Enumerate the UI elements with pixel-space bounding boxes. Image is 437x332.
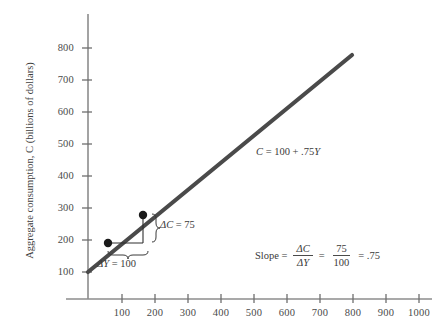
slope-formula-label: Slope = — [255, 250, 287, 261]
y-tick-label-300: 300 — [40, 202, 74, 213]
equation-lhs: C — [256, 146, 263, 157]
slope-fraction-numeric: 75 100 — [331, 243, 353, 268]
slope-result: = .75 — [358, 250, 380, 261]
y-tick-label-100: 100 — [40, 266, 74, 277]
consumption-function-chart: Aggregate consumption, C (billions of do… — [0, 0, 437, 332]
slope-denominator-symbolic: ΔY — [294, 256, 312, 268]
delta-y-label: ΔY = 100 — [97, 258, 136, 269]
slope-numerator-symbolic: ΔC — [293, 243, 312, 256]
y-tick-label-200: 200 — [40, 234, 74, 245]
y-tick-label-500: 500 — [40, 138, 74, 149]
equation-body: = 100 + .75 — [263, 146, 314, 157]
y-tick-label-400: 400 — [40, 170, 74, 181]
x-tick-label-1000: 1000 — [399, 307, 437, 318]
slope-numerator-numeric: 75 — [333, 243, 350, 256]
y-tick-label-600: 600 — [40, 106, 74, 117]
data-point-lower — [104, 239, 112, 247]
data-point-upper — [139, 211, 147, 219]
slope-fraction-symbolic: ΔC ΔY — [293, 243, 312, 268]
y-tick-label-800: 800 — [40, 42, 74, 53]
delta-c-label: ΔC = 75 — [160, 219, 195, 230]
delta-y-symbol: ΔY — [97, 258, 109, 269]
delta-c-value: = 75 — [173, 219, 195, 230]
y-axis-ticks — [82, 48, 92, 272]
slope-denominator-numeric: 100 — [331, 256, 353, 268]
delta-y-value: = 100 — [109, 258, 136, 269]
delta-c-symbol: ΔC — [160, 219, 173, 230]
consumption-line — [88, 55, 352, 272]
line-equation-label: C = 100 + .75Y — [256, 146, 320, 157]
equation-rhs: Y — [314, 146, 320, 157]
y-tick-label-700: 700 — [40, 74, 74, 85]
slope-formula: Slope = ΔC ΔY = 75 100 = .75 — [255, 243, 380, 268]
slope-equals-first: = — [319, 250, 325, 261]
